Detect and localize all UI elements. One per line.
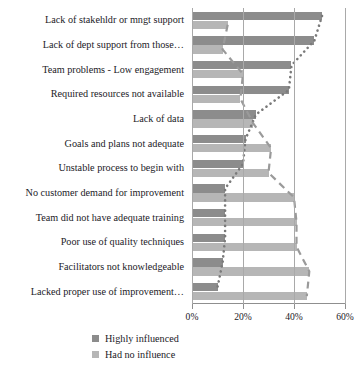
x-tick-mark: [243, 304, 244, 309]
x-tick-mark: [192, 304, 193, 309]
bar-row: [192, 205, 345, 230]
bar-had-no-influence: [192, 119, 253, 127]
x-tick-label: 60%: [336, 311, 354, 322]
bar-highly-influenced: [192, 283, 218, 291]
bar-had-no-influence: [192, 267, 309, 275]
legend-item[interactable]: Had no influence: [92, 346, 179, 362]
bar-row: [192, 255, 345, 280]
bar-highly-influenced: [192, 110, 256, 118]
bar-highly-influenced: [192, 36, 314, 44]
bar-row: [192, 57, 345, 82]
bar-row: [192, 181, 345, 206]
bar-had-no-influence: [192, 218, 297, 226]
y-axis-category-label: Lack of data: [133, 113, 184, 124]
bar-row: [192, 107, 345, 132]
legend-label: Had no influence: [105, 349, 175, 360]
bar-row: [192, 156, 345, 181]
y-axis-category-label: Unstable process to begin with: [58, 162, 184, 173]
bar-row: [192, 33, 345, 58]
gridline-20: [243, 8, 244, 304]
x-tick-label: 40%: [285, 311, 303, 322]
y-axis-category-label: Poor use of quality techniques: [61, 236, 184, 247]
bar-had-no-influence: [192, 292, 307, 300]
bar-rows: [192, 8, 345, 304]
y-axis-category-label: Lack of dept support from those…: [43, 39, 184, 50]
bar-highly-influenced: [192, 61, 291, 69]
bar-highly-influenced: [192, 160, 243, 168]
bar-row: [192, 82, 345, 107]
bar-highly-influenced: [192, 135, 246, 143]
bar-chart: Lack of stakehldr or mngt supportLack of…: [0, 0, 364, 367]
y-axis-category-label: Team problems - Low engagement: [42, 64, 184, 75]
bar-highly-influenced: [192, 209, 225, 217]
bar-had-no-influence: [192, 45, 223, 53]
legend-swatch-icon: [92, 351, 99, 358]
bar-highly-influenced: [192, 184, 225, 192]
plot-area: [192, 8, 345, 304]
y-axis-category-label: No customer demand for improvement: [26, 187, 184, 198]
gridline-60: [345, 8, 346, 304]
y-axis-category-label: Required resources not available: [51, 88, 184, 99]
y-axis-category-label: Lack of stakehldr or mngt support: [45, 14, 184, 25]
y-axis-category-label: Facilitators not knowledgeable: [58, 261, 184, 272]
bar-highly-influenced: [192, 12, 322, 20]
bar-highly-influenced: [192, 234, 225, 242]
bar-highly-influenced: [192, 86, 289, 94]
y-axis-category-label: Lacked proper use of improvement…: [31, 286, 184, 297]
legend-label: Highly influenced: [105, 333, 179, 344]
legend-item[interactable]: Highly influenced: [92, 330, 179, 346]
bar-highly-influenced: [192, 258, 223, 266]
bar-row: [192, 230, 345, 255]
bar-had-no-influence: [192, 70, 243, 78]
chart-legend: Highly influencedHad no influence: [92, 330, 179, 362]
bar-had-no-influence: [192, 144, 271, 152]
bar-row: [192, 131, 345, 156]
x-tick-label: 0%: [186, 311, 199, 322]
y-axis-category-label: Team did not have adequate training: [36, 212, 184, 223]
y-axis-category-label: Goals and plans not adequate: [65, 138, 184, 149]
x-tick-mark: [345, 304, 346, 309]
gridline-40: [294, 8, 295, 304]
bar-row: [192, 8, 345, 33]
legend-swatch-icon: [92, 335, 99, 342]
y-axis-category-labels: Lack of stakehldr or mngt supportLack of…: [0, 8, 188, 304]
bar-row: [192, 279, 345, 304]
bar-had-no-influence: [192, 21, 228, 29]
x-tick-mark: [294, 304, 295, 309]
x-axis-line: [192, 303, 345, 304]
bar-had-no-influence: [192, 243, 297, 251]
bar-had-no-influence: [192, 169, 269, 177]
gridline-0: [192, 8, 193, 304]
x-tick-label: 20%: [234, 311, 252, 322]
bar-had-no-influence: [192, 95, 240, 103]
